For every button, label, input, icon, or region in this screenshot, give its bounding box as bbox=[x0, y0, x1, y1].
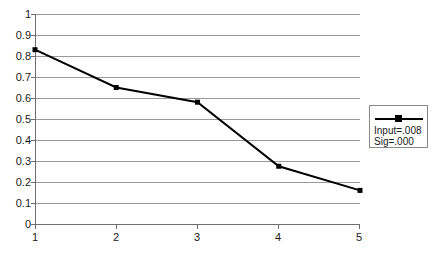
data-point-marker bbox=[114, 85, 119, 90]
series-line bbox=[35, 50, 360, 191]
data-point-marker bbox=[33, 47, 38, 52]
series-markers bbox=[33, 47, 363, 193]
legend-label-input: Input=.008 bbox=[374, 125, 422, 136]
line-chart: 1 0.9 0.8 0.7 0.6 0.5 0.4 0.3 0.2 0.1 0 … bbox=[0, 0, 441, 259]
legend-label-sig: Sig=.000 bbox=[374, 136, 414, 147]
legend-sample bbox=[375, 114, 423, 123]
data-point-marker bbox=[195, 100, 200, 105]
data-point-marker bbox=[358, 188, 363, 193]
legend-marker-swatch bbox=[395, 115, 402, 122]
data-point-marker bbox=[276, 164, 281, 169]
legend[interactable]: Input=.008 Sig=.000 bbox=[369, 105, 428, 148]
